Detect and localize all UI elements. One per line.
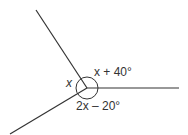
- ray-upper-left: [36, 10, 87, 88]
- label-upper-angle: x + 40°: [94, 66, 132, 78]
- label-left-angle: x: [66, 77, 72, 89]
- angle-diagram: x x + 40° 2x – 20°: [0, 0, 188, 135]
- label-lower-angle: 2x – 20°: [76, 100, 120, 112]
